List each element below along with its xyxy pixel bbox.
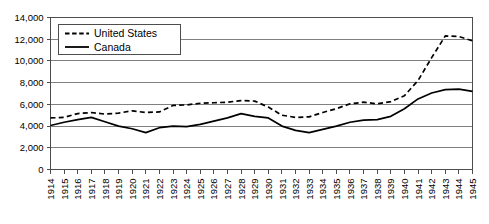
x-axis-tick-label: 1914	[45, 179, 56, 200]
x-axis-tick-label: 1917	[86, 179, 97, 200]
y-axis-tick-label: 2,000	[20, 142, 44, 153]
x-axis-tick-label: 1942	[426, 179, 437, 200]
chart-container: 02,0004,0006,0008,00010,00012,00014,000 …	[0, 0, 489, 224]
x-axis-tick-label: 1939	[385, 179, 396, 200]
x-axis-tick-labels: 1914191519161917191819191920192119221923…	[45, 179, 478, 200]
x-axis-tick-label: 1916	[72, 179, 83, 200]
x-axis-tick-label: 1937	[358, 179, 369, 200]
x-axis-tick-label: 1926	[208, 179, 219, 200]
x-axis-tick-label: 1915	[59, 179, 70, 200]
x-axis-tick-label: 1923	[168, 179, 179, 200]
x-axis-tick-label: 1944	[453, 179, 464, 200]
x-axis-tick-label: 1922	[154, 179, 165, 200]
x-axis-tick-label: 1931	[277, 179, 288, 200]
x-axis-tick-label: 1918	[100, 179, 111, 200]
x-axis-tick-label: 1941	[413, 179, 424, 200]
legend-label-canada: Canada	[94, 41, 131, 53]
x-axis-tick-label: 1945	[467, 179, 478, 200]
x-axis-tick-label: 1940	[399, 179, 410, 200]
x-axis-tick-label: 1927	[222, 179, 233, 200]
x-axis-tick-label: 1919	[113, 179, 124, 200]
line-chart: 02,0004,0006,0008,00010,00012,00014,000 …	[0, 0, 489, 224]
x-axis-tick-label: 1920	[127, 179, 138, 200]
x-axis-tick-label: 1933	[304, 179, 315, 200]
y-axis-tickmarks	[47, 18, 51, 170]
chart-legend: United StatesCanada	[58, 24, 180, 54]
x-axis-tick-label: 1938	[372, 179, 383, 200]
x-axis-tick-label: 1928	[236, 179, 247, 200]
y-axis-tick-label: 4,000	[20, 120, 44, 131]
x-axis-tick-label: 1932	[290, 179, 301, 200]
x-axis-tick-label: 1925	[195, 179, 206, 200]
y-axis-tick-label: 0	[38, 164, 43, 175]
y-axis-tick-label: 6,000	[20, 99, 44, 110]
x-axis-tick-label: 1921	[140, 179, 151, 200]
x-axis-tick-label: 1934	[317, 179, 328, 200]
x-axis-tick-label: 1943	[440, 179, 451, 200]
y-axis-tick-labels: 02,0004,0006,0008,00010,00012,00014,000	[14, 12, 43, 175]
y-axis-tick-label: 8,000	[20, 77, 44, 88]
x-axis-tick-label: 1929	[249, 179, 260, 200]
x-axis-tick-label: 1924	[181, 179, 192, 200]
x-axis-tickmarks	[51, 170, 473, 174]
x-axis-tick-label: 1936	[345, 179, 356, 200]
y-axis-tick-label: 12,000	[14, 34, 43, 45]
legend-label-united-states: United States	[94, 27, 157, 39]
x-axis-tick-label: 1930	[263, 179, 274, 200]
y-axis-tick-label: 10,000	[14, 55, 43, 66]
y-axis-tick-label: 14,000	[14, 12, 43, 23]
x-axis-tick-label: 1935	[331, 179, 342, 200]
